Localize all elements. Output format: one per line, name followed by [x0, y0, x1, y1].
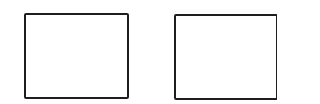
- box-right-label: [176, 16, 276, 98]
- empty-box-right: [174, 14, 277, 100]
- box-left-label: [26, 15, 127, 97]
- empty-box-left: [24, 13, 129, 99]
